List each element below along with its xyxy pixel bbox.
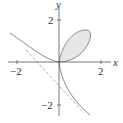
folium-branch-lower: [59, 62, 90, 115]
y-axis-label: y: [55, 0, 61, 10]
x-tick-label-neg2: −2: [10, 65, 22, 77]
folium-branch-left: [10, 33, 59, 62]
asymptote-line: [26, 50, 84, 113]
x-tick-label-2: 2: [98, 65, 104, 77]
y-tick-label-neg2: −2: [41, 99, 53, 111]
x-axis-label: x: [112, 56, 118, 68]
y-tick-label-2: 2: [48, 14, 54, 26]
folium-loop: [59, 30, 91, 62]
folium-plot: x y −2 2 2 −2: [0, 0, 123, 123]
